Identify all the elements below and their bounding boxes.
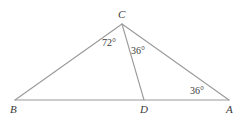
vertex-label-c: C [118,9,125,20]
segment-cevian-CD [122,24,144,100]
vertex-label-a: A [226,104,233,115]
vertex-label-b: B [10,104,17,115]
geometry-diagram: B C D A 72° 36° 36° [0,0,243,119]
angle-label-cad: 36° [190,86,204,96]
segment-BC [15,24,122,100]
angle-label-dca: 36° [131,46,145,56]
segment-CA [122,24,229,100]
angle-label-bcd: 72° [102,38,116,48]
vertex-label-d: D [140,104,148,115]
